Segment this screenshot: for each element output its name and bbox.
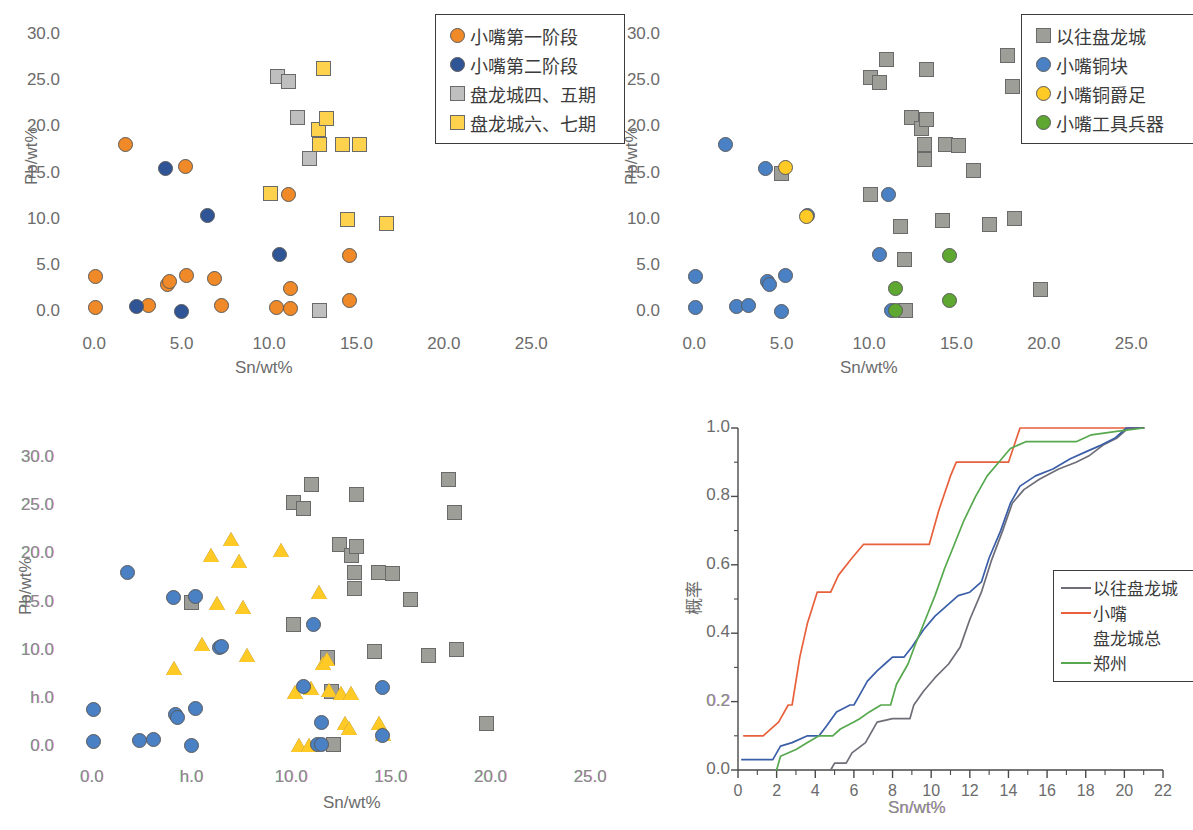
data-point-circle	[158, 161, 173, 176]
x-tick-label: 20	[1106, 782, 1142, 800]
legend-item-2[interactable]: 小嘴铜块	[1030, 50, 1188, 79]
data-point-circle	[214, 298, 229, 313]
data-point-circle	[306, 617, 321, 632]
y-tick-label: 25.0	[8, 70, 60, 90]
data-point-circle	[881, 187, 896, 202]
legend-swatch-square	[444, 108, 470, 137]
x-tick-label: 16	[1029, 782, 1065, 800]
legend-item-1[interactable]: 以往盘龙城	[1030, 21, 1188, 50]
data-point-circle	[269, 300, 284, 315]
data-point-circle	[86, 702, 101, 717]
data-point-circle	[778, 268, 793, 283]
y-axis-label-c: Pb/wt%	[16, 557, 36, 615]
legend-d[interactable]: 以往盘龙城小嘴盘龙城总郑州	[1053, 570, 1193, 682]
x-tick-label: 5.0	[154, 334, 210, 354]
data-point-circle	[118, 137, 133, 152]
legend-item-3[interactable]: 小嘴铜爵足	[1030, 79, 1188, 108]
x-tick-label: 25.0	[503, 334, 559, 354]
data-point-square	[296, 501, 311, 516]
x-tick-label: 20.0	[416, 334, 472, 354]
legend-item-4[interactable]: 郑州	[1059, 650, 1192, 675]
data-point-square	[312, 303, 327, 318]
data-point-circle	[129, 299, 144, 314]
data-point-circle	[283, 281, 298, 296]
data-point-circle	[170, 710, 185, 725]
data-point-triangle	[341, 721, 357, 735]
legend-b[interactable]: 以往盘龙城小嘴铜块小嘴铜爵足小嘴工具兵器	[1021, 14, 1193, 144]
legend-item-4[interactable]: 盘龙城六、七期	[444, 108, 616, 137]
legend-swatch-circle	[1030, 108, 1056, 137]
data-point-circle	[86, 734, 101, 749]
x-tick-label: 12	[952, 782, 988, 800]
legend-swatch-circle	[1030, 79, 1056, 108]
x-tick-label: 10.0	[263, 767, 319, 787]
y-tick-label: 0.2	[678, 691, 730, 711]
x-tick-label: 0.0	[64, 767, 120, 787]
data-point-circle	[688, 269, 703, 284]
legend-item-1[interactable]: 小嘴第一阶段	[444, 21, 616, 50]
data-point-circle	[774, 304, 789, 319]
legend-item-label: 盘龙城六、七期	[470, 110, 596, 136]
legend-item-label: 小嘴第二阶段	[470, 52, 578, 78]
data-point-square	[917, 152, 932, 167]
data-point-square	[367, 644, 382, 659]
legend-item-3[interactable]: 盘龙城总	[1059, 625, 1192, 650]
y-tick-label: 0.0	[678, 759, 730, 779]
data-point-square	[1000, 48, 1015, 63]
data-point-square	[290, 110, 305, 125]
legend-item-label: 盘龙城总	[1093, 625, 1161, 650]
legend-line-swatch	[1059, 600, 1093, 625]
x-tick-label: 0.0	[666, 334, 722, 354]
data-point-circle	[162, 274, 177, 289]
data-point-circle	[214, 639, 229, 654]
data-point-square	[385, 566, 400, 581]
data-point-square	[371, 565, 386, 580]
data-point-square	[349, 539, 364, 554]
legend-marker-circle-icon	[1036, 86, 1051, 101]
data-point-triangle	[311, 585, 327, 599]
data-point-circle	[166, 590, 181, 605]
data-point-square	[286, 617, 301, 632]
data-point-triangle	[235, 600, 251, 614]
data-point-square	[263, 186, 278, 201]
data-point-square	[863, 187, 878, 202]
legend-item-label: 以往盘龙城	[1056, 23, 1146, 49]
data-point-square	[441, 472, 456, 487]
legend-item-4[interactable]: 小嘴工具兵器	[1030, 108, 1188, 137]
legend-item-label: 小嘴第一阶段	[470, 23, 578, 49]
legend-item-2[interactable]: 小嘴	[1059, 600, 1192, 625]
legend-item-2[interactable]: 小嘴第二阶段	[444, 50, 616, 79]
legend-a[interactable]: 小嘴第一阶段小嘴第二阶段盘龙城四、五期盘龙城六、七期	[435, 14, 625, 144]
legend-item-label: 郑州	[1093, 650, 1127, 675]
data-point-circle	[762, 277, 777, 292]
data-point-square	[347, 581, 362, 596]
x-tick-label: 25.0	[562, 767, 618, 787]
data-point-triangle	[194, 637, 210, 651]
data-point-square	[982, 217, 997, 232]
data-point-circle	[207, 271, 222, 286]
data-point-circle	[88, 300, 103, 315]
data-point-square	[872, 75, 887, 90]
y-tick-label: 25.0	[608, 70, 660, 90]
x-tick-label: 14	[990, 782, 1026, 800]
data-point-circle	[342, 248, 357, 263]
y-tick-label: 0.0	[4, 736, 54, 756]
legend-marker-circle-icon	[450, 57, 465, 72]
x-tick-label: 4	[797, 782, 833, 800]
legend-item-1[interactable]: 以往盘龙城	[1059, 575, 1192, 600]
data-point-circle	[375, 728, 390, 743]
legend-item-label: 小嘴铜块	[1056, 52, 1128, 78]
data-point-square	[917, 137, 932, 152]
data-point-circle	[942, 293, 957, 308]
data-point-square	[304, 477, 319, 492]
x-tick-label: 25.0	[1103, 334, 1159, 354]
data-point-circle	[799, 209, 814, 224]
data-point-circle	[174, 304, 189, 319]
y-tick-label: 30.0	[4, 447, 54, 467]
y-axis-label-a: Pb/wt%	[22, 127, 42, 185]
legend-item-3[interactable]: 盘龙城四、五期	[444, 79, 616, 108]
y-tick-label: 10.0	[608, 209, 660, 229]
legend-marker-square-icon	[1036, 28, 1051, 43]
legend-line-icon	[1061, 587, 1091, 589]
y-tick-label: 0.0	[608, 301, 660, 321]
